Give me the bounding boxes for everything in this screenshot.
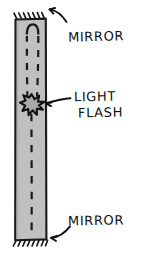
label-flash: FLASH bbox=[78, 106, 123, 120]
label-light: LIGHT bbox=[74, 90, 116, 104]
arrow-to-light-flash bbox=[46, 98, 71, 106]
figure-canvas: MIRROR LIGHT FLASH MIRROR bbox=[0, 0, 151, 253]
top-mirror-surface bbox=[14, 13, 44, 19]
bar-body bbox=[15, 19, 46, 241]
arrow-to-bottom-mirror bbox=[51, 226, 70, 241]
label-mirror-bottom: MIRROR bbox=[68, 214, 124, 228]
light-clock-bar bbox=[15, 19, 46, 241]
arrow-to-top-mirror bbox=[50, 8, 67, 22]
label-mirror-top: MIRROR bbox=[68, 29, 124, 43]
